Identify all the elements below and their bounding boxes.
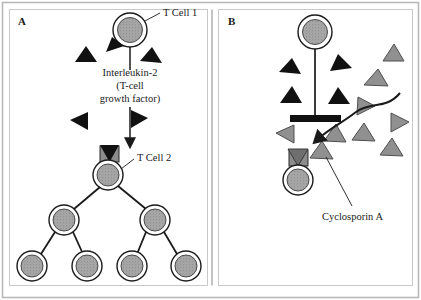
granddaughter-cell-4: [171, 251, 201, 281]
figure-frame: [3, 3, 419, 298]
panel-a-letter: A: [18, 15, 26, 27]
interleukin-label-line2: (T-cell: [116, 80, 144, 92]
figure-root: A T Cell 1: [0, 0, 421, 300]
daughter-cell-right: [140, 205, 170, 235]
granddaughter-cell-1: [17, 251, 47, 281]
granddaughter-cell-2: [72, 251, 102, 281]
granddaughter-cell-3: [117, 251, 147, 281]
interleukin-label-line1: Interleukin-2: [103, 67, 158, 78]
interleukin-label-line3: growth factor): [100, 93, 161, 105]
figure-svg: A T Cell 1: [0, 0, 421, 300]
t-cell-2-label: T Cell 2: [137, 152, 171, 163]
t-cell-2-blocked-receptor: [288, 149, 308, 166]
cyclosporin-label: Cyclosporin A: [322, 211, 383, 222]
daughter-cell-left: [49, 205, 79, 235]
blockade-bar: [290, 115, 341, 122]
t-cell-2-blocked: [283, 165, 313, 195]
t-cell-1-blocked: [298, 15, 332, 49]
panel-b-letter: B: [228, 15, 236, 27]
t-cell-1-label: T Cell 1: [163, 7, 197, 18]
